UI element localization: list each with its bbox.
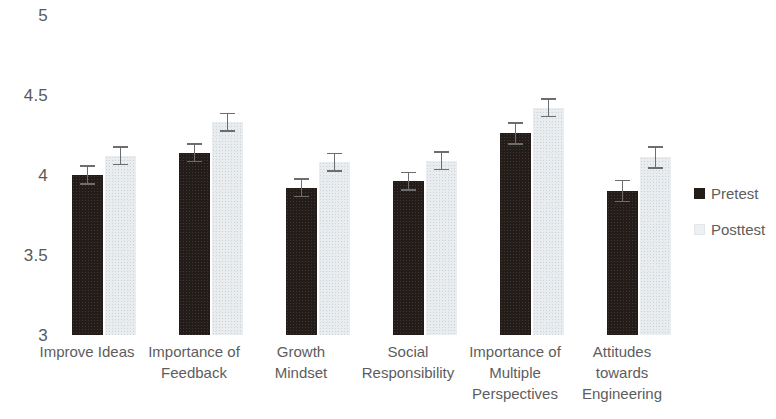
bar-pretest <box>500 133 531 335</box>
legend-item-pretest: Pretest <box>694 180 776 207</box>
x-axis-tick-label: Growth Mindset <box>242 341 360 383</box>
chart-legend: Pretest Posttest <box>694 180 776 252</box>
x-axis-tick-label: Importance of Feedback <box>135 341 253 383</box>
bar-pretest <box>393 181 424 335</box>
bar-pretest <box>286 188 317 335</box>
x-axis-tick-label: Social Responsibility <box>349 341 467 383</box>
error-bar-cap-top <box>113 146 128 148</box>
bar-pretest <box>607 191 638 335</box>
bar-posttest <box>105 156 136 335</box>
legend-label: Posttest <box>711 222 765 237</box>
bar-group <box>163 15 270 335</box>
bar-group <box>591 15 698 335</box>
error-bar-cap-top <box>220 113 235 115</box>
y-tick-label: 3.5 <box>24 247 48 264</box>
y-tick-label: 4 <box>38 167 48 184</box>
error-bar-cap-top <box>187 143 202 145</box>
bar-pretest <box>72 175 103 335</box>
error-bar-cap-top <box>541 98 556 100</box>
error-bar-cap-top <box>80 165 95 167</box>
error-bar-cap-top <box>508 122 523 124</box>
x-axis-tick-label: Importance of Multiple Perspectives <box>456 341 574 404</box>
bar-posttest <box>426 161 457 335</box>
error-bar-cap-top <box>401 172 416 174</box>
error-bar-cap-top <box>294 178 309 180</box>
bar-group <box>484 15 591 335</box>
legend-item-posttest: Posttest <box>694 216 776 243</box>
legend-swatch-icon <box>694 188 705 199</box>
legend-label: Pretest <box>711 186 759 201</box>
legend-swatch-icon <box>694 224 705 235</box>
error-bar-cap-top <box>615 180 630 182</box>
error-bar-cap-top <box>648 146 663 148</box>
bar-group <box>270 15 377 335</box>
error-bar-cap-top <box>434 151 449 153</box>
x-axis-labels: Improve Ideas Importance of Feedback Gro… <box>56 341 666 419</box>
x-axis-tick-label: Attitudes towards Engineering <box>563 341 681 404</box>
error-bar-cap-top <box>327 153 342 155</box>
plot-area <box>56 15 666 335</box>
bar-posttest <box>319 162 350 335</box>
x-axis-tick-label: Improve Ideas <box>28 341 146 362</box>
y-tick-label: 5 <box>38 7 48 24</box>
bar-posttest <box>640 157 671 335</box>
bar-group <box>56 15 163 335</box>
bar-pretest <box>179 153 210 335</box>
bar-posttest <box>533 108 564 335</box>
bar-chart: 5 4.5 4 3.5 3 Improve Ideas Importance o… <box>0 0 776 419</box>
bar-posttest <box>212 122 243 335</box>
y-tick-label: 4.5 <box>24 87 48 104</box>
bar-group <box>377 15 484 335</box>
